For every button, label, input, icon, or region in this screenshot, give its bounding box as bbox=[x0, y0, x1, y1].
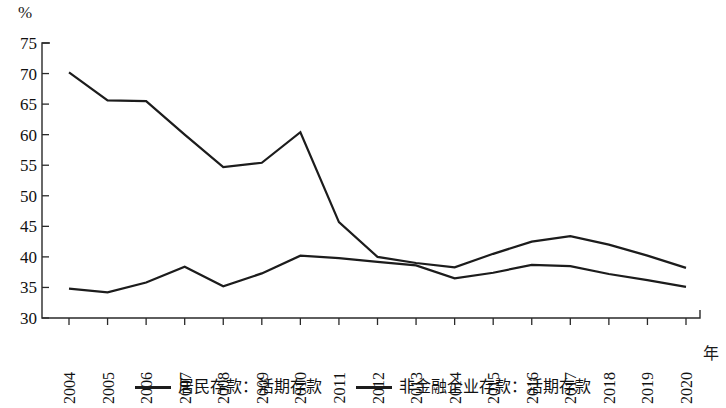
svg-text:50: 50 bbox=[20, 187, 37, 206]
chart-plot-svg: 30354045505560657075 2004200520062007200… bbox=[0, 0, 726, 408]
svg-text:60: 60 bbox=[20, 126, 37, 145]
legend-label-nonfinancial-enterprise: 非金融企业存款：活期存款 bbox=[399, 378, 591, 396]
x-axis-title: 年 bbox=[703, 340, 719, 364]
svg-text:40: 40 bbox=[20, 248, 37, 267]
legend-swatch-household bbox=[135, 386, 171, 389]
svg-text:70: 70 bbox=[20, 65, 37, 84]
series-line-household-demand-deposits bbox=[69, 256, 686, 293]
legend-item-nonfinancial-enterprise: 非金融企业存款：活期存款 bbox=[356, 378, 591, 396]
svg-text:45: 45 bbox=[20, 217, 37, 236]
svg-text:65: 65 bbox=[20, 95, 37, 114]
svg-text:35: 35 bbox=[20, 278, 37, 297]
svg-text:75: 75 bbox=[20, 34, 37, 53]
axis-frame bbox=[42, 43, 700, 318]
x-axis-tick-marks bbox=[69, 318, 686, 325]
svg-text:55: 55 bbox=[20, 156, 37, 175]
y-axis-tick-labels: 30354045505560657075 bbox=[20, 34, 37, 328]
chart-container: % 30354045505560657075 20042005200620072… bbox=[0, 0, 726, 408]
chart-legend: 居民存款：活期存款 非金融企业存款：活期存款 bbox=[0, 378, 726, 396]
y-axis-tick-marks bbox=[42, 43, 49, 318]
series-line-nonfinancial-enterprise-demand-deposits bbox=[69, 72, 686, 268]
legend-swatch-nonfinancial-enterprise bbox=[356, 386, 392, 389]
legend-item-household: 居民存款：活期存款 bbox=[135, 378, 322, 396]
legend-label-household: 居民存款：活期存款 bbox=[178, 378, 322, 396]
svg-text:30: 30 bbox=[20, 309, 37, 328]
